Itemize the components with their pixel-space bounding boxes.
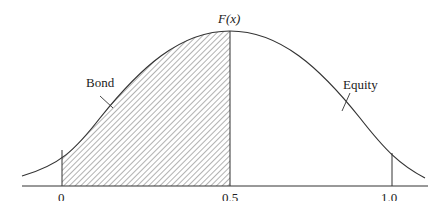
x-tick-1.0: 1.0 — [381, 191, 397, 201]
equity-leader-line — [342, 93, 350, 111]
distribution-diagram — [0, 0, 446, 201]
bond-leader-line — [100, 96, 113, 108]
equity-label: Equity — [343, 78, 378, 91]
x-tick-0.5: 0.5 — [222, 191, 238, 201]
function-label: F(x) — [218, 12, 240, 25]
bond-label: Bond — [86, 76, 114, 89]
x-tick-0: 0 — [58, 191, 65, 201]
